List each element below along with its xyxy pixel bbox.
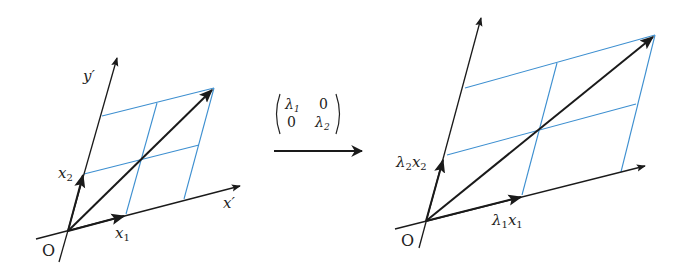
vector-lambda1-x1-label: λ1x1 [492, 213, 523, 230]
vector-lambda2-x2-label: λ2x2 [396, 155, 427, 172]
x-axis-label: x′ [223, 196, 235, 211]
vector-x1-label: x1 [115, 226, 130, 243]
vector-x2-label: x2 [58, 166, 73, 183]
matrix-cell-21: 0 [287, 115, 296, 129]
matrix-cell-11: λ1 [285, 97, 300, 114]
origin-label-left: O [42, 243, 55, 259]
right-vectors [426, 37, 653, 221]
y-axis-label: y′ [83, 69, 95, 84]
left-vectors [68, 90, 212, 231]
eigen-transform-diagram: y′ x′ x2 x1 O λ1 0 0 λ2 λ2x2 λ1x1 O [0, 0, 679, 268]
matrix-cell-22: λ2 [315, 115, 330, 132]
matrix-cell-12: 0 [319, 97, 328, 111]
transform-matrix: λ1 0 0 λ2 [272, 90, 344, 138]
right-figure [395, 18, 655, 248]
left-figure [36, 58, 240, 262]
origin-label-right: O [401, 233, 414, 249]
